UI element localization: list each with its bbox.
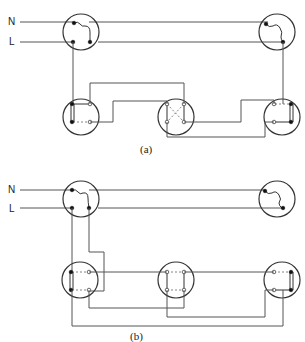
two-way-switch-2-b [264,262,300,298]
two-way-switch-1-b [62,262,98,298]
strapper-3-a [184,100,274,122]
lamp-flex-icon [266,24,283,42]
strapper-3-b [89,290,184,308]
caption-a: (a) [140,143,153,156]
wiring-diagrams: N L [0,0,305,342]
strapper-4-b [167,290,274,317]
ceiling-rose-right-a [259,14,295,50]
ceiling-rose-right-b [259,181,295,217]
ceiling-rose-left-a [63,14,99,50]
intermediate-switch-a [158,99,194,135]
two-way-switch-1-a [63,99,99,135]
diagram-b: N L [8,181,300,342]
switch-wire-b [89,208,104,291]
neutral-label-a: N [8,16,15,27]
diagram-a: N L [8,14,300,156]
intermediate-switch-b [158,262,194,298]
live-label-b: L [9,203,15,214]
strapper-2-a [90,101,167,122]
caption-b: (b) [130,330,143,342]
lamp-flex-icon [74,22,90,41]
ceiling-rose-left-b [63,181,99,217]
neutral-label-b: N [8,184,15,195]
two-way-switch-2-a [264,99,300,135]
strapper-4-a [167,122,274,137]
live-label-a: L [9,36,15,47]
